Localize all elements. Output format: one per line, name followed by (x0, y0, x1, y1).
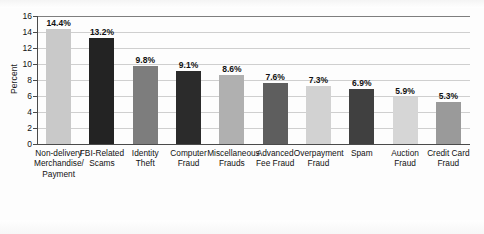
bar-value-label: 5.3% (439, 91, 458, 101)
y-axis-tick-label: 2 (6, 123, 32, 133)
x-axis-category-label: Non-deliveryMerchandise/Payment (34, 148, 83, 179)
bar-value-label: 7.3% (309, 75, 328, 85)
x-axis-category-label: AdvancedFee Fraud (251, 148, 300, 169)
bar-group[interactable]: 7.3% (306, 16, 331, 144)
category-label-line: Fraud (380, 158, 429, 168)
bar[interactable] (393, 97, 418, 144)
bar-value-label: 8.6% (222, 64, 241, 74)
x-axis-category-label: Credit CardFraud (424, 148, 473, 169)
bar-value-label: 14.4% (47, 18, 71, 28)
bar-group[interactable]: 5.9% (393, 16, 418, 144)
bar-group[interactable]: 9.8% (133, 16, 158, 144)
category-label-line: Theft (121, 158, 170, 168)
x-axis-line (37, 144, 470, 145)
bar-group[interactable]: 6.9% (349, 16, 374, 144)
bar-group[interactable]: 9.1% (176, 16, 201, 144)
bar[interactable] (349, 89, 374, 144)
category-label-line: FBI-Related (77, 148, 126, 158)
bar[interactable] (89, 38, 114, 144)
x-axis-category-label: AuctionFraud (380, 148, 429, 169)
bar-group[interactable]: 8.6% (219, 16, 244, 144)
x-axis-category-label: MiscellaneousFrauds (207, 148, 256, 169)
bar-value-label: 9.8% (136, 55, 155, 65)
bar-group[interactable]: 7.6% (263, 16, 288, 144)
bar[interactable] (306, 86, 331, 144)
category-label-line: Spam (337, 148, 386, 158)
category-label-line: Fraud (424, 158, 473, 168)
category-label-line: Frauds (207, 158, 256, 168)
bar-series: 14.4%13.2%9.8%9.1%8.6%7.6%7.3%6.9%5.9%5.… (37, 16, 470, 144)
category-label-line: Scams (77, 158, 126, 168)
bar-group[interactable]: 14.4% (46, 16, 71, 144)
y-axis-tick-label: 6 (6, 91, 32, 101)
category-label-line: Non-delivery (34, 148, 83, 158)
category-label-line: Payment (34, 169, 83, 179)
bar-group[interactable]: 5.3% (436, 16, 461, 144)
y-axis-tick-label: 10 (6, 59, 32, 69)
bar[interactable] (46, 29, 71, 144)
category-label-line: Computer (164, 148, 213, 158)
category-label-line: Fraud (164, 158, 213, 168)
category-label-line: Overpayment (294, 148, 343, 158)
x-axis-category-labels: Non-deliveryMerchandise/PaymentFBI-Relat… (37, 148, 470, 198)
bar-value-label: 5.9% (395, 86, 414, 96)
y-axis-tick-label: 4 (6, 107, 32, 117)
bar-value-label: 6.9% (352, 78, 371, 88)
category-label-line: Credit Card (424, 148, 473, 158)
y-axis-tick-label: 12 (6, 43, 32, 53)
bar-value-label: 13.2% (90, 27, 114, 37)
category-label-line: Fraud (294, 158, 343, 168)
category-label-line: Miscellaneous (207, 148, 256, 158)
bar-value-label: 9.1% (179, 60, 198, 70)
y-axis-tick-label: 14 (6, 27, 32, 37)
category-label-line: Auction (380, 148, 429, 158)
bar[interactable] (263, 83, 288, 144)
y-axis-tick-label: 8 (6, 75, 32, 85)
y-axis-tick-label: 16 (6, 11, 32, 21)
bar-group[interactable]: 13.2% (89, 16, 114, 144)
x-axis-category-label: ComputerFraud (164, 148, 213, 169)
category-label-line: Advanced (251, 148, 300, 158)
category-label-line: Merchandise/ (34, 158, 83, 168)
scan-artifact-bottom (0, 220, 484, 234)
x-axis-category-label: IdentityTheft (121, 148, 170, 169)
category-label-line: Identity (121, 148, 170, 158)
bar-chart: Percent 1614121086420 14.4%13.2%9.8%9.1%… (0, 0, 484, 234)
bar[interactable] (133, 66, 158, 144)
scan-artifact-top (0, 0, 484, 8)
bar-value-label: 7.6% (265, 72, 284, 82)
x-axis-category-label: OverpaymentFraud (294, 148, 343, 169)
bar[interactable] (176, 71, 201, 144)
x-axis-category-label: Spam (337, 148, 386, 158)
bar[interactable] (219, 75, 244, 144)
y-axis-tick-label: 0 (6, 139, 32, 149)
category-label-line: Fee Fraud (251, 158, 300, 168)
bar[interactable] (436, 102, 461, 144)
x-axis-category-label: FBI-RelatedScams (77, 148, 126, 169)
